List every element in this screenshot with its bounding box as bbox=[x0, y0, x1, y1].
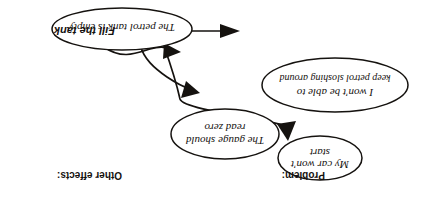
label-problem: Problem: bbox=[282, 170, 325, 181]
node-gauge-read-zero[interactable]: The gauge should read zero bbox=[171, 109, 279, 159]
edge-fill-arrowhead bbox=[220, 24, 240, 38]
node-petrol-sloshing-around-line-2: keep petrol sloshing around bbox=[278, 73, 390, 84]
edge-fill-the-tank-label: Fill the tank bbox=[53, 25, 115, 37]
edge-gauge-arrowhead bbox=[181, 81, 200, 98]
diagram-canvas: The petrol tank is empty My car won't st… bbox=[0, 0, 422, 199]
node-petrol-sloshing-around-line-1: I won't be able to bbox=[296, 87, 374, 99]
node-gauge-read-zero-shape[interactable] bbox=[171, 109, 279, 159]
label-other-effects: Other effects: bbox=[57, 170, 122, 181]
node-petrol-sloshing-around[interactable]: I won't be able to keep petrol sloshing … bbox=[262, 58, 408, 112]
edge-start-arrowhead bbox=[277, 121, 296, 141]
node-my-car-wont-start-line-2: start bbox=[309, 147, 330, 159]
node-gauge-read-zero-line-1: The gauge should bbox=[185, 135, 264, 147]
sketch-rotated-container: The petrol tank is empty My car won't st… bbox=[0, 0, 422, 199]
node-gauge-read-zero-line-2: read zero bbox=[204, 122, 246, 134]
node-petrol-sloshing-around-shape[interactable] bbox=[262, 58, 408, 112]
